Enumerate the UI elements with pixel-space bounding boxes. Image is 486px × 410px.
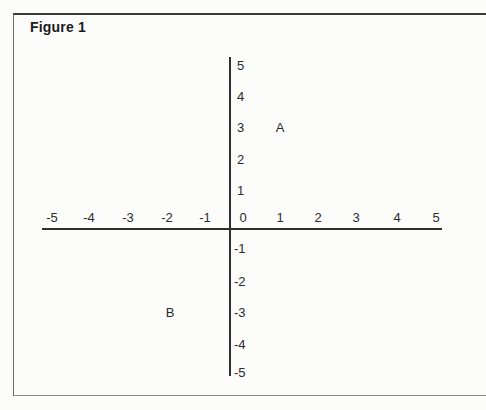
y-tick-label: -5 bbox=[234, 365, 246, 381]
y-tick-label: -1 bbox=[234, 241, 246, 257]
figure-title: Figure 1 bbox=[30, 19, 86, 35]
y-tick-label: 5 bbox=[237, 58, 244, 74]
figure-panel: Figure 1 -5 -4 -3 -2 -1 0 1 2 3 4 5 5 4 … bbox=[0, 0, 486, 410]
x-tick-label: 3 bbox=[352, 210, 359, 226]
point-label-b: B bbox=[166, 305, 175, 321]
y-tick-label: 3 bbox=[237, 120, 244, 136]
x-tick-label: 5 bbox=[432, 210, 439, 226]
x-tick-label: 0 bbox=[239, 210, 246, 226]
y-tick-label: 1 bbox=[237, 183, 244, 199]
x-tick-label: -4 bbox=[83, 210, 95, 226]
x-tick-label: -3 bbox=[122, 210, 134, 226]
x-tick-label: -1 bbox=[199, 210, 211, 226]
y-axis-line bbox=[229, 57, 231, 376]
x-axis-line bbox=[42, 228, 442, 230]
x-tick-label: -2 bbox=[161, 210, 173, 226]
point-label-a: A bbox=[276, 120, 285, 136]
y-tick-label: -4 bbox=[234, 337, 246, 353]
x-tick-label: 2 bbox=[314, 210, 321, 226]
y-tick-label: -2 bbox=[234, 274, 246, 290]
x-tick-label: 1 bbox=[276, 210, 283, 226]
y-tick-label: 2 bbox=[237, 152, 244, 168]
y-tick-label: 4 bbox=[237, 89, 244, 105]
figure-frame-border bbox=[13, 13, 486, 396]
y-tick-label: -3 bbox=[234, 305, 246, 321]
x-tick-label: -5 bbox=[46, 210, 58, 226]
x-tick-label: 4 bbox=[393, 210, 400, 226]
